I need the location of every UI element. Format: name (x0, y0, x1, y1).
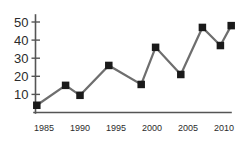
data-point-marker (199, 24, 207, 32)
y-axis-tick-label: 30 (14, 51, 28, 66)
x-axis-tick-label: 2005 (178, 123, 198, 133)
y-axis-tick-label: 40 (14, 33, 28, 48)
data-point-marker (177, 71, 185, 79)
x-axis-tick-label: 2010 (214, 123, 234, 133)
x-axis-tick-label: 1985 (34, 123, 54, 133)
data-point-marker (33, 102, 41, 110)
data-point-marker (152, 44, 160, 52)
x-axis-tick-label: 1990 (70, 123, 90, 133)
data-point-marker (137, 81, 145, 89)
y-axis-tick-label: 10 (14, 87, 28, 102)
data-point-marker (105, 62, 113, 70)
series-markers (33, 22, 235, 109)
line-chart: 1020304050 198519901995200020052010 (0, 0, 236, 141)
y-axis-tick-labels: 1020304050 (14, 15, 28, 102)
data-point-marker (217, 42, 225, 50)
x-axis-tick-label: 2000 (142, 123, 162, 133)
data-point-marker (76, 92, 84, 100)
data-point-marker (62, 82, 70, 90)
data-series (33, 22, 235, 109)
y-axis-tick-label: 20 (14, 69, 28, 84)
chart-container: 1020304050 198519901995200020052010 (0, 0, 236, 141)
data-point-marker (227, 22, 235, 30)
x-axis-tick-labels: 198519901995200020052010 (34, 123, 234, 133)
y-axis: 1020304050 (14, 15, 40, 114)
x-axis-tick-label: 1995 (106, 123, 126, 133)
y-axis-tick-label: 50 (14, 15, 28, 30)
x-axis: 198519901995200020052010 (34, 113, 234, 134)
series-line (37, 26, 231, 106)
